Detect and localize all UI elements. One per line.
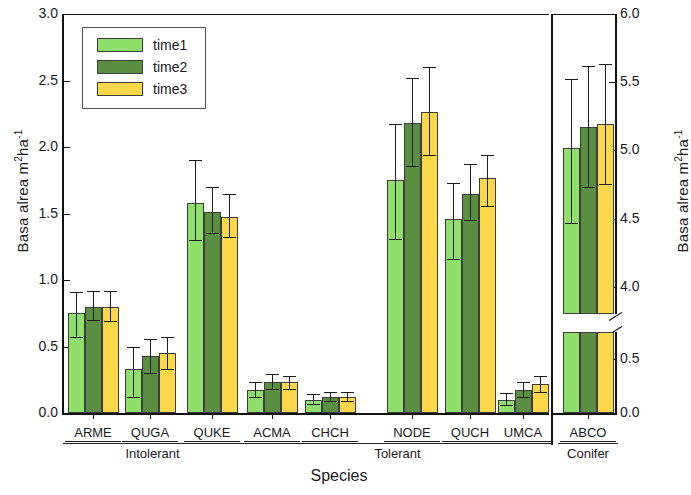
y-tick-mark-right [609, 413, 615, 414]
error-bar-cap [324, 392, 337, 393]
x-axis-group-label: Tolerant [242, 446, 553, 461]
error-bar-line-lower [540, 384, 541, 392]
error-bar-line [571, 79, 572, 147]
y-tick-label-right: 6.0 [620, 5, 660, 21]
bar [479, 178, 496, 413]
error-bar-line-lower [470, 194, 471, 221]
error-bar-line-lower [453, 219, 454, 259]
error-bar-line-lower [429, 112, 430, 155]
x-axis-label: Species [0, 467, 678, 485]
error-bar-cap-lower [127, 397, 140, 398]
x-axis-species-label: QUKE [184, 425, 240, 442]
error-bar-cap [565, 79, 578, 80]
error-bar-line-lower [289, 382, 290, 389]
error-bar-cap-lower [582, 187, 595, 188]
error-bar-cap [87, 291, 100, 292]
error-bar-line-lower [487, 178, 488, 206]
x-axis-species-label: UMCA [495, 425, 551, 442]
error-bar-cap [423, 67, 436, 68]
error-bar-line [255, 382, 256, 390]
error-bar-cap [389, 124, 402, 125]
error-bar-line-lower [150, 356, 151, 373]
error-bar-line [523, 382, 524, 390]
error-bar-cap [406, 78, 419, 79]
error-bar-line [229, 194, 230, 218]
y-tick-mark-left [64, 147, 70, 148]
y-tick-label-left: 2.5 [16, 72, 58, 88]
x-tick-mark [272, 414, 273, 419]
error-bar-cap-lower [341, 401, 354, 402]
error-bar-cap-lower [161, 369, 174, 370]
x-axis-species-label: QUCH [442, 425, 498, 442]
x-tick-mark [93, 414, 94, 419]
y-axis-label-right-text: Basa alrea m [674, 162, 691, 253]
plot-right-spine-lower [615, 332, 617, 415]
y-axis-label-right: Basa alrea m2ha-1 [673, 81, 691, 301]
error-bar-cap [161, 337, 174, 338]
bar [102, 307, 119, 413]
legend-label-time1: time1 [153, 37, 187, 53]
x-tick-mark [150, 414, 151, 419]
x-tick-mark [330, 414, 331, 419]
error-bar-cap [223, 194, 236, 195]
error-bar-cap [189, 160, 202, 161]
error-bar-cap [481, 155, 494, 156]
bar [204, 212, 221, 413]
error-bar-cap [104, 291, 117, 292]
error-bar-line [212, 187, 213, 212]
error-bar-cap-lower [500, 405, 513, 406]
error-bar-line-lower [195, 203, 196, 240]
y-tick-label-left: 0.5 [16, 338, 58, 354]
error-bar-cap-lower [144, 373, 157, 374]
error-bar-cap-lower [223, 237, 236, 238]
y-axis-label-left: Basa alrea m2ha-1 [13, 81, 31, 301]
error-bar-cap [464, 164, 477, 165]
bar [85, 307, 102, 413]
x-axis-group-label: Conifer [558, 446, 618, 461]
y-tick-label-left: 1.0 [16, 271, 58, 287]
legend-swatch-time2 [97, 60, 143, 74]
y-tick-label-left: 3.0 [16, 5, 58, 21]
error-bar-cap-lower [406, 166, 419, 167]
error-bar-cap-lower [307, 404, 320, 405]
error-bar-line-lower [212, 212, 213, 233]
x-axis-species-label: ARME [65, 425, 121, 442]
y-axis-label-right-tail: ha [674, 139, 691, 156]
y-tick-label-right: 4.5 [620, 210, 660, 226]
error-bar-line [605, 64, 606, 124]
legend-swatch-time1 [97, 38, 143, 52]
error-bar-cap [517, 382, 530, 383]
error-bar-cap [534, 376, 547, 377]
error-bar-line [76, 292, 77, 313]
error-bar-cap-lower [249, 397, 262, 398]
error-bar-line [470, 164, 471, 193]
plot-bottom-spine [62, 413, 549, 415]
x-tick-mark [212, 414, 213, 419]
x-axis-species-label: ACMA [244, 425, 300, 442]
y-tick-mark-left [64, 81, 70, 82]
x-axis-group-rule [242, 443, 553, 444]
error-bar-line [487, 155, 488, 178]
y-axis-label-left-sup: 2 [13, 156, 24, 162]
y-tick-label-left: 0.0 [16, 404, 58, 420]
bar [462, 194, 479, 413]
bar [563, 332, 580, 413]
x-tick-mark [412, 414, 413, 419]
error-bar-line [540, 376, 541, 384]
y-tick-mark-left [64, 214, 70, 215]
y-tick-label-right: 4.0 [620, 278, 660, 294]
error-bar-cap-lower [565, 223, 578, 224]
error-bar-line-lower [229, 217, 230, 237]
error-bar-line-lower [93, 307, 94, 320]
error-bar-line [588, 66, 589, 127]
error-bar-line-lower [588, 127, 589, 187]
error-bar-cap-lower [534, 392, 547, 393]
bar [421, 112, 438, 413]
conifer-top-spine [551, 14, 617, 15]
x-tick-mark [588, 414, 589, 419]
x-axis-species-label: NODE [384, 425, 440, 442]
y-axis-label-right-sup: 2 [673, 156, 684, 162]
y-tick-mark-left [64, 413, 70, 414]
plot-top-spine [62, 14, 549, 15]
